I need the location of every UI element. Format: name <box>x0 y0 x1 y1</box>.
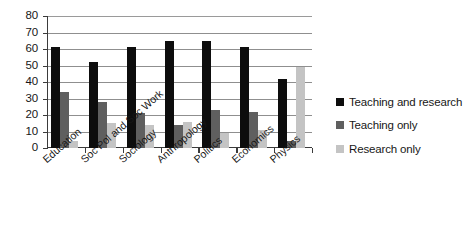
legend-label: Teaching and research <box>349 96 462 108</box>
legend-swatch <box>336 98 344 106</box>
legend-item: Teaching and research <box>336 92 475 111</box>
legend-swatch <box>336 145 344 153</box>
legend-item: Research only <box>336 139 475 158</box>
x-tick-label: Education <box>41 126 83 165</box>
chart-legend: Teaching and researchTeaching onlyResear… <box>336 92 475 163</box>
x-tick-label: Physics <box>268 133 303 165</box>
legend-swatch <box>336 121 344 129</box>
legend-item: Teaching only <box>336 116 475 135</box>
legend-label: Teaching only <box>349 119 417 131</box>
legend-label: Research only <box>349 143 421 155</box>
x-tick-label: Politics <box>192 135 224 165</box>
bar-chart: 01020304050607080 EducationSoc Pol and S… <box>0 0 475 247</box>
